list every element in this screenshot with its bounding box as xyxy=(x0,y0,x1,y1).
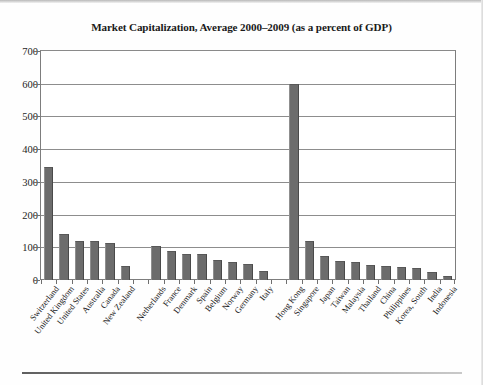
bar-slot xyxy=(443,51,453,280)
bar-series xyxy=(41,51,455,280)
chart-title: Market Capitalization, Average 2000–2009… xyxy=(0,21,483,33)
y-tick-mark xyxy=(34,149,40,150)
bar-slot xyxy=(75,51,85,280)
bar-slot xyxy=(289,51,299,280)
bar xyxy=(320,256,330,280)
bar-slot xyxy=(320,51,330,280)
bar-slot xyxy=(412,51,422,280)
bar xyxy=(427,272,437,280)
bar-slot xyxy=(351,51,361,280)
bar xyxy=(366,265,376,280)
y-tick-mark xyxy=(34,116,40,117)
bar xyxy=(305,241,315,280)
bar xyxy=(167,251,177,280)
bar xyxy=(351,262,361,280)
page-top-edge xyxy=(0,0,483,3)
bar-slot xyxy=(335,51,345,280)
bar-slot xyxy=(44,51,54,280)
bar-slot xyxy=(59,51,69,280)
y-tick-mark xyxy=(34,247,40,248)
bar xyxy=(151,246,161,280)
y-tick-mark xyxy=(34,51,40,52)
x-axis-labels: SwitzerlandUnited KingdomUnited StatesAu… xyxy=(0,284,483,364)
chart-page: Market Capitalization, Average 2000–2009… xyxy=(0,0,483,385)
bar xyxy=(44,167,54,280)
bar xyxy=(197,254,207,280)
bar xyxy=(397,267,407,280)
bar xyxy=(213,260,223,280)
bar-slot xyxy=(151,51,161,280)
bar-slot xyxy=(366,51,376,280)
bar-slot xyxy=(228,51,238,280)
bar-slot xyxy=(105,51,115,280)
bar-slot xyxy=(213,51,223,280)
bar xyxy=(105,243,115,280)
bar xyxy=(182,254,192,280)
y-tick-mark xyxy=(34,182,40,183)
bar-slot xyxy=(381,51,391,280)
bar-slot xyxy=(259,51,269,280)
bar xyxy=(335,261,345,280)
bar-slot xyxy=(90,51,100,280)
y-tick-mark xyxy=(34,280,40,281)
bar-slot xyxy=(182,51,192,280)
x-tick-label: Italy xyxy=(258,284,276,303)
bar xyxy=(243,264,253,280)
y-tick-mark xyxy=(34,84,40,85)
page-bottom-edge xyxy=(22,372,462,374)
bar xyxy=(59,234,69,280)
bar-slot xyxy=(197,51,207,280)
bar xyxy=(259,271,269,280)
bar xyxy=(381,266,391,280)
bar-slot xyxy=(397,51,407,280)
bar xyxy=(75,241,85,280)
bar-slot xyxy=(427,51,437,280)
bar xyxy=(412,268,422,280)
y-tick-mark xyxy=(34,215,40,216)
y-axis: 7006005004003002001000 xyxy=(0,50,38,280)
bar xyxy=(121,266,131,280)
bar xyxy=(289,84,299,280)
bar-slot xyxy=(243,51,253,280)
bar xyxy=(90,241,100,280)
bar-slot xyxy=(305,51,315,280)
bar-slot xyxy=(121,51,131,280)
bar xyxy=(228,262,238,280)
bar-slot xyxy=(167,51,177,280)
